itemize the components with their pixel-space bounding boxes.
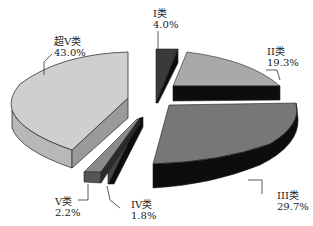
- label-iii-value: 29.7%: [277, 201, 309, 212]
- label-v-value: 2.2%: [55, 207, 80, 218]
- label-iv: IV类 1.8%: [131, 199, 156, 221]
- label-v-name: V类: [55, 196, 80, 207]
- label-iv-name: IV类: [131, 199, 156, 210]
- label-iv-value: 1.8%: [131, 210, 156, 221]
- label-ii-value: 19.3%: [267, 57, 299, 68]
- label-v: V类 2.2%: [55, 196, 80, 218]
- label-i-value: 4.0%: [153, 19, 178, 30]
- slice-iii: [153, 103, 298, 188]
- label-iii-name: III类: [277, 190, 309, 201]
- pie-chart: [0, 0, 313, 226]
- label-super-v: 超V类 43.0%: [54, 36, 86, 58]
- label-super-v-name: 超V类: [54, 36, 86, 47]
- label-super-v-value: 43.0%: [54, 47, 86, 58]
- label-i-name: I类: [153, 8, 178, 19]
- label-i: I类 4.0%: [153, 8, 178, 30]
- label-ii: II类 19.3%: [267, 46, 299, 68]
- slice-ii: [173, 52, 280, 101]
- label-iii: III类 29.7%: [277, 190, 309, 212]
- label-ii-name: II类: [267, 46, 299, 57]
